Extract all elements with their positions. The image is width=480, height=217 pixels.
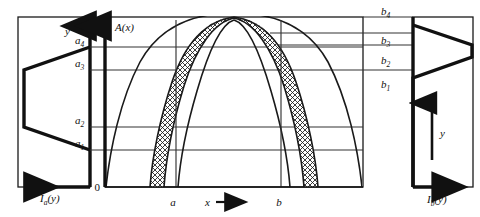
- center-y-zero-label: 0: [95, 181, 101, 193]
- left-panel-x-label: Ia(y): [39, 192, 60, 207]
- center-y-top-label: 1: [93, 12, 99, 24]
- curve-1: [106, 13, 362, 187]
- alpha-label-4: a4: [75, 34, 85, 49]
- beta-label-1: b1: [381, 78, 390, 93]
- x-tick-b: b: [276, 196, 282, 208]
- curve-3: [164, 18, 304, 187]
- left-panel-y-label: y: [64, 25, 70, 37]
- beta-label-2: b2: [381, 54, 391, 69]
- center-panel-frame: [105, 17, 363, 187]
- beta-labels: b4 b3 b2 b1: [381, 5, 391, 93]
- right-intensity-profile: [413, 25, 472, 187]
- alpha-label-3: a3: [75, 57, 85, 72]
- absorption-curves: [106, 13, 362, 187]
- figure-root: y Ia(y): [0, 0, 480, 217]
- diagram-canvas: y Ia(y): [0, 0, 480, 217]
- x-axis-label: x: [204, 196, 210, 208]
- right-panel-y-label: y: [439, 127, 445, 139]
- alpha-label-2: a2: [75, 114, 85, 129]
- x-tick-a: a: [170, 196, 176, 208]
- right-panel: Ib(y) y: [413, 17, 473, 208]
- center-panel: 1 0 A(x) a b x: [90, 12, 413, 208]
- alpha-gridlines: [90, 47, 363, 150]
- beta-label-3: b3: [381, 34, 391, 49]
- center-y-axis-label: A(x): [114, 21, 134, 34]
- right-panel-x-label: Ib(y): [426, 193, 447, 208]
- alpha-label-1: a1: [75, 137, 84, 152]
